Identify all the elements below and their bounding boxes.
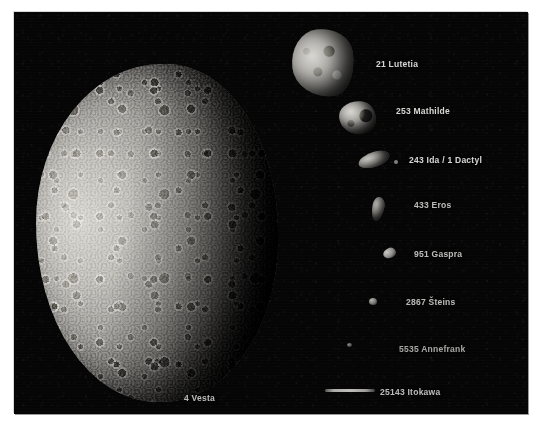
asteroid-gaspra-icon (382, 246, 398, 260)
asteroid-lutetia-icon (288, 25, 358, 100)
label-ida-dactyl: 243 Ida / 1 Dactyl (409, 155, 482, 165)
moon-dactyl-icon (394, 160, 398, 164)
vesta-crater-texture (36, 64, 278, 402)
label-mathilde: 253 Mathilde (396, 106, 450, 116)
asteroid-vesta-icon (36, 64, 278, 402)
vesta-terminator-shadow (36, 64, 278, 402)
label-gaspra: 951 Gaspra (414, 249, 462, 259)
label-steins: 2867 Šteins (406, 297, 456, 307)
asteroid-steins-icon (369, 298, 377, 305)
label-lutetia: 21 Lutetia (376, 59, 418, 69)
asteroid-comparison-photo: 21 Lutetia 253 Mathilde 243 Ida / 1 Dact… (14, 12, 528, 414)
image-viewport: 21 Lutetia 253 Mathilde 243 Ida / 1 Dact… (0, 0, 548, 431)
asteroid-annefrank-icon (347, 343, 352, 347)
label-vesta: 4 Vesta (184, 393, 215, 403)
asteroid-eros-icon (370, 196, 386, 222)
label-eros: 433 Eros (414, 200, 451, 210)
asteroid-itokawa-icon (325, 389, 375, 392)
vesta-surface-texture (36, 64, 278, 402)
asteroid-ida-icon (357, 148, 392, 171)
asteroid-mathilde-icon (337, 99, 377, 136)
mathilde-crater-texture (337, 99, 377, 136)
label-itokawa: 25143 Itokawa (380, 387, 440, 397)
lutetia-crater-texture (288, 25, 358, 100)
label-annefrank: 5535 Annefrank (399, 344, 466, 354)
